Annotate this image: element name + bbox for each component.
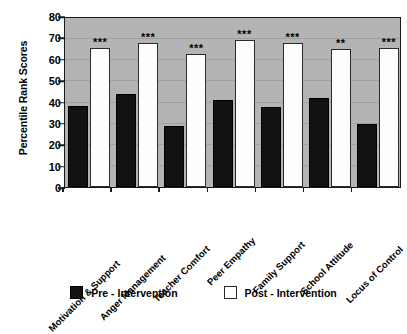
bar-group: ***	[261, 18, 303, 187]
significance-marker: ***	[189, 43, 203, 54]
y-tick-label: 40	[21, 97, 61, 109]
significance-marker: **	[336, 38, 346, 49]
bar-pre-intervention	[357, 124, 377, 187]
legend-label: Pre - Intervention	[91, 287, 177, 299]
y-tick-label: 20	[21, 139, 61, 151]
bar-pre-intervention	[164, 126, 184, 187]
significance-marker: ***	[237, 29, 251, 40]
bar-group: **	[309, 18, 351, 187]
legend-entry: Pre - Intervention	[70, 286, 177, 299]
bar-pre-intervention	[309, 98, 329, 187]
plot-area: ********************	[64, 17, 401, 188]
bar-post-intervention: ***	[138, 43, 158, 187]
y-tick-label: 60	[21, 54, 61, 66]
significance-marker: ***	[285, 32, 299, 43]
bar-pre-intervention	[68, 106, 88, 187]
bar-group: ***	[164, 18, 206, 187]
bar-pre-intervention	[261, 107, 281, 187]
y-tick-label: 80	[21, 11, 61, 23]
bar-group: ***	[116, 18, 158, 187]
y-tick-label: 30	[21, 118, 61, 130]
significance-marker: ***	[141, 32, 155, 43]
bar-post-intervention: ***	[283, 43, 303, 187]
bar-post-intervention: ***	[90, 48, 110, 187]
legend-swatch-pre	[70, 286, 83, 299]
legend-entry: Post - Intervention	[224, 286, 337, 299]
y-tick-label: 70	[21, 32, 61, 44]
bar-post-intervention: ***	[379, 48, 399, 187]
bar-post-intervention: **	[331, 49, 351, 187]
significance-marker: ***	[382, 37, 396, 48]
bar-pre-intervention	[116, 94, 136, 187]
y-tick-label: 10	[21, 161, 61, 173]
bar-group: ***	[213, 18, 255, 187]
y-tick-label: 50	[21, 75, 61, 87]
y-tick-label: 0	[21, 182, 61, 194]
bar-group: ***	[68, 18, 110, 187]
bar-pre-intervention	[213, 100, 233, 187]
chart-legend: Pre - InterventionPost - Intervention	[0, 286, 407, 299]
legend-label: Post - Intervention	[245, 287, 337, 299]
bar-group: ***	[357, 18, 399, 187]
bar-post-intervention: ***	[235, 40, 255, 187]
x-axis-category-label: Peer Empathy	[204, 235, 257, 288]
significance-marker: ***	[93, 37, 107, 48]
legend-swatch-post	[224, 286, 237, 299]
x-axis-labels: Motivation & SupportAnger ManagementTeac…	[64, 190, 401, 265]
bar-post-intervention: ***	[186, 54, 206, 187]
